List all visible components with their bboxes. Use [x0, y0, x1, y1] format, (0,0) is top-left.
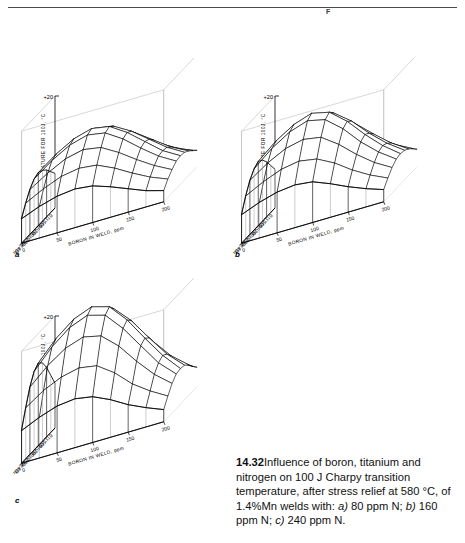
x-tick-label: 150 [125, 435, 135, 443]
z-tick-top: +20 [44, 94, 54, 100]
x-tick-label: 200 [381, 204, 391, 212]
x-tick-label: 150 [125, 215, 135, 223]
surface-svg-c: +20-90TEMPERATURE FOR 100J, °C0501001502… [8, 278, 220, 474]
surface-plot-a: +20-90TEMPERATURE FOR 100J, °C0501001502… [8, 58, 220, 254]
x-tick-label: 50 [276, 236, 283, 243]
surface-svg-a: +20-90TEMPERATURE FOR 100J, °C0501001502… [8, 58, 220, 254]
caption-text-4: 240 ppm N. [285, 514, 346, 526]
z-tick-top: +20 [264, 94, 274, 100]
header-rule [8, 7, 457, 8]
caption-marker-a: a) [338, 500, 348, 512]
figure-number: 14.32 [236, 456, 264, 468]
x-tick-label: 50 [56, 236, 63, 243]
caption-text-2: 80 ppm N; [348, 500, 406, 512]
x-tick-label: 200 [161, 204, 171, 212]
surface-plot-c: +20-90TEMPERATURE FOR 100J, °C0501001502… [8, 278, 220, 474]
x-tick-label: 50 [56, 456, 63, 463]
z-tick-top: +20 [44, 314, 54, 320]
panel-letter-c: c [15, 496, 19, 505]
caption-marker-c: c) [275, 514, 284, 526]
surface-svg-b: +20-90TEMPERATURE FOR 100J, °C0501001502… [228, 58, 440, 254]
surface-plot-b: +20-90TEMPERATURE FOR 100J, °C0501001502… [228, 58, 440, 254]
x-tick-label: 150 [345, 215, 355, 223]
panel-letter-a: a [15, 250, 19, 259]
figure-caption: 14.32Influence of boron, titanium and ni… [236, 455, 458, 528]
header-mark: F [326, 8, 331, 15]
x-tick-label: 200 [161, 424, 171, 432]
panel-letter-b: b [235, 250, 240, 259]
caption-marker-b: b) [406, 500, 416, 512]
